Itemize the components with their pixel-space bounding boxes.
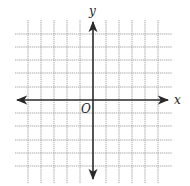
origin-label: O	[81, 102, 91, 116]
x-axis-label: x	[174, 93, 181, 107]
coordinate-plane: y x O	[0, 0, 190, 186]
y-axis-label: y	[88, 4, 96, 18]
